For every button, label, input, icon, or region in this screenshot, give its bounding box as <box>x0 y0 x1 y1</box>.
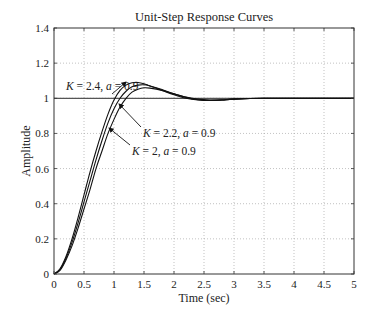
y-tick-label: 0.8 <box>35 127 49 139</box>
curve-annotations: K = 2.4, a = 0.9K = 2.2, a = 0.9K = 2, a… <box>65 80 216 158</box>
annotation-arrow-2 <box>109 128 130 145</box>
x-tick-label: 3.5 <box>257 278 271 290</box>
x-tick-label: 0.5 <box>77 278 91 290</box>
y-tick-label: 1.4 <box>35 22 49 34</box>
x-tick-label: 5 <box>351 278 357 290</box>
y-tick-label: 0 <box>44 268 50 280</box>
x-axis-label: Time (sec) <box>178 291 229 305</box>
annotation-label-0: K = 2.4, a = 0.9 <box>65 80 139 93</box>
x-tick-label: 1 <box>111 278 117 290</box>
y-tick-label: 1.2 <box>35 57 49 69</box>
x-tick-label: 3 <box>231 278 237 290</box>
annotation-arrow-1 <box>119 104 141 127</box>
x-tick-label: 2 <box>171 278 177 290</box>
x-tick-label: 2.5 <box>197 278 211 290</box>
y-tick-label: 1 <box>44 92 50 104</box>
y-tick-label: 0.4 <box>35 198 49 210</box>
x-tick-label: 0 <box>51 278 57 290</box>
response-curve-1 <box>54 85 354 274</box>
chart-title: Unit-Step Response Curves <box>135 10 273 24</box>
y-tick-label: 0.6 <box>35 163 49 175</box>
y-axis-label: Amplitude <box>19 125 33 176</box>
x-tick-label: 4 <box>291 278 297 290</box>
x-tick-label: 1.5 <box>137 278 151 290</box>
annotation-label-1: K = 2.2, a = 0.9 <box>142 127 216 140</box>
x-tick-label: 4.5 <box>317 278 331 290</box>
y-tick-label: 0.2 <box>35 233 49 245</box>
annotation-label-2: K = 2, a = 0.9 <box>131 145 196 158</box>
step-response-chart: Unit-Step Response Curves 00.511.522.533… <box>0 0 375 321</box>
